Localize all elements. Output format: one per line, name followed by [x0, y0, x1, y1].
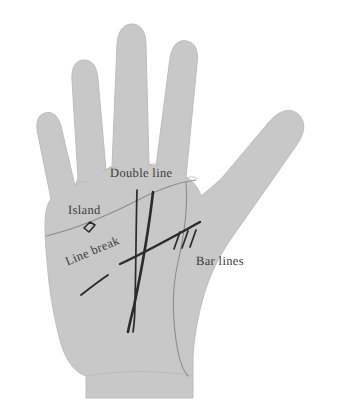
- hand-illustration: [0, 0, 337, 417]
- label-bar-lines: Bar lines: [196, 255, 244, 268]
- label-double-line: Double line: [110, 167, 173, 180]
- label-island: Island: [68, 204, 101, 217]
- palmistry-hand-diagram: Double line Island Line break Bar lines: [0, 0, 337, 417]
